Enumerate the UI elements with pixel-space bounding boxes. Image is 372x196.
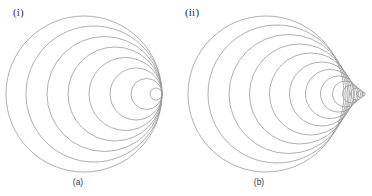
wavefront-circle xyxy=(110,68,162,120)
wavefront-circle xyxy=(68,47,162,141)
panel-right-caption: (b) xyxy=(247,178,271,187)
panel-left-wavefront-circles xyxy=(6,16,162,172)
wavefront-circle xyxy=(270,53,352,135)
wavefront-circle xyxy=(229,35,348,154)
figure-root: (i) (ii) (a) (b) xyxy=(0,0,372,196)
panel-left-roman-label: (i) xyxy=(13,7,24,18)
panel-right-roman-label: (ii) xyxy=(185,7,199,18)
wavefront-circle xyxy=(250,44,350,144)
wavefront-circle xyxy=(6,16,162,172)
wavefront-circle xyxy=(131,79,162,110)
wavefront-circle xyxy=(150,88,162,100)
wavefront-circle xyxy=(26,26,162,162)
wavefront-circle xyxy=(306,70,355,119)
wavefront-circle xyxy=(47,37,162,152)
panel-left-caption: (a) xyxy=(66,178,90,187)
wavefront-circle xyxy=(89,58,162,131)
wavefront-diagram-canvas xyxy=(0,0,372,196)
panel-right-wavefront-circles xyxy=(188,16,365,172)
